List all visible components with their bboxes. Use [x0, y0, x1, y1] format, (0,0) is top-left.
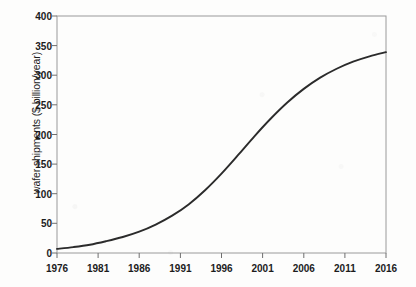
x-axis-tick-labels: 1976 1981 1986 1991 1996 2001 2006 2011 … [0, 0, 416, 287]
x-tick-label: 1986 [128, 263, 150, 274]
x-tick-label: 1996 [210, 263, 232, 274]
x-tick-label: 1981 [87, 263, 109, 274]
chart-figure: wafer shipments ($ billion/year) 400 350… [0, 0, 416, 287]
x-tick-label: 2016 [375, 263, 397, 274]
x-tick-label: 1976 [46, 263, 68, 274]
x-tick-label: 2006 [293, 263, 315, 274]
x-tick-label: 2011 [334, 263, 356, 274]
x-tick-label: 2001 [251, 263, 273, 274]
x-tick-label: 1991 [169, 263, 191, 274]
